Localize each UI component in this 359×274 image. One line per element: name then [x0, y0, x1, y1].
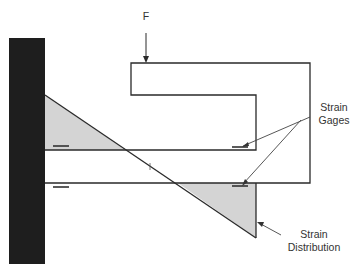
force-label: F [140, 10, 152, 23]
strain-distribution-label-line2: Distribution [278, 241, 350, 254]
fixed-wall [9, 38, 45, 264]
strain-gages-label-line1: Strain [312, 101, 356, 114]
strain-distribution-label-line1: Strain [278, 228, 350, 241]
distribution-leader-arrowhead [257, 222, 264, 227]
force-arrow-head [143, 56, 149, 63]
strain-distribution-label: Strain Distribution [278, 228, 350, 254]
strain-distribution-line [45, 95, 256, 238]
strain-gages-label-line2: Gages [312, 114, 356, 127]
gage-leader-bottom [243, 120, 301, 184]
strain-gages-label: Strain Gages [312, 101, 356, 127]
